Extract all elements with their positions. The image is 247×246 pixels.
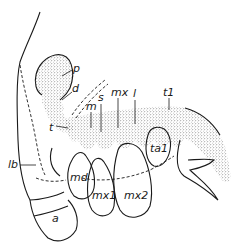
label-t1: t1	[163, 86, 174, 99]
lb-inner-curve	[50, 148, 60, 176]
label-ta1: ta1	[150, 142, 168, 155]
label-d: d	[72, 82, 80, 95]
label-a: a	[52, 212, 59, 225]
lb-dashed	[36, 178, 66, 181]
label-lb: lb	[8, 158, 18, 171]
label-md: md	[70, 171, 89, 184]
label-mx1: mx1	[92, 189, 116, 202]
label-p: p	[72, 62, 80, 75]
label-s: s	[98, 91, 104, 104]
label-mx: mx	[111, 86, 129, 99]
mx2-maxilla	[114, 143, 152, 217]
label-mx2: mx2	[124, 189, 148, 202]
label-l: l	[133, 87, 136, 100]
label-t: t	[49, 121, 54, 134]
label-m: m	[86, 100, 97, 113]
anatomical-diagram: p d m s mx l t1 t lb md mx1 mx2 ta1 a	[0, 0, 247, 246]
lb-labium	[30, 192, 68, 216]
